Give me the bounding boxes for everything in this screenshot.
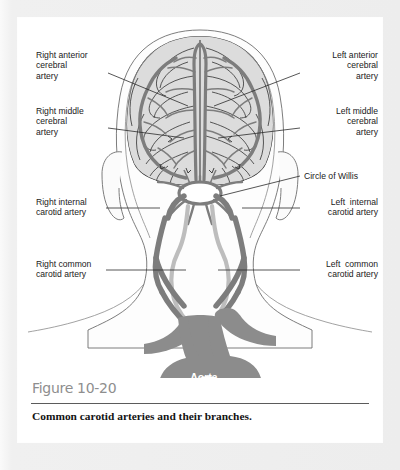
figure-page: Aorta Right anterior cerebral artery Rig… bbox=[0, 0, 400, 470]
ear-right-of-image bbox=[276, 152, 298, 220]
label-right-anterior-cerebral-artery: Right anterior cerebral artery bbox=[36, 50, 112, 81]
label-left-internal-carotid-artery: Left internal carotid artery bbox=[304, 197, 378, 218]
brain bbox=[127, 36, 274, 186]
label-right-middle-cerebral-artery: Right middle cerebral artery bbox=[36, 106, 112, 137]
label-left-anterior-cerebral-artery: Left anterior cerebral artery bbox=[304, 50, 378, 81]
caption-divider bbox=[31, 403, 369, 404]
label-right-common-carotid-artery: Right common carotid artery bbox=[36, 259, 116, 280]
figure-caption: Common carotid arteries and their branch… bbox=[32, 410, 368, 422]
label-left-common-carotid-artery: Left common carotid artery bbox=[304, 259, 378, 280]
page-sheet: Aorta Right anterior cerebral artery Rig… bbox=[18, 18, 382, 442]
figure-illustration: Aorta Right anterior cerebral artery Rig… bbox=[18, 18, 382, 442]
label-right-internal-carotid-artery: Right internal carotid artery bbox=[36, 197, 116, 218]
figure-number: Figure 10-20 bbox=[32, 380, 116, 396]
label-left-middle-cerebral-artery: Left middle cerebral artery bbox=[304, 106, 378, 137]
aorta-inline-label: Aorta bbox=[190, 371, 218, 378]
label-circle-of-willis: Circle of Willis bbox=[304, 171, 384, 181]
